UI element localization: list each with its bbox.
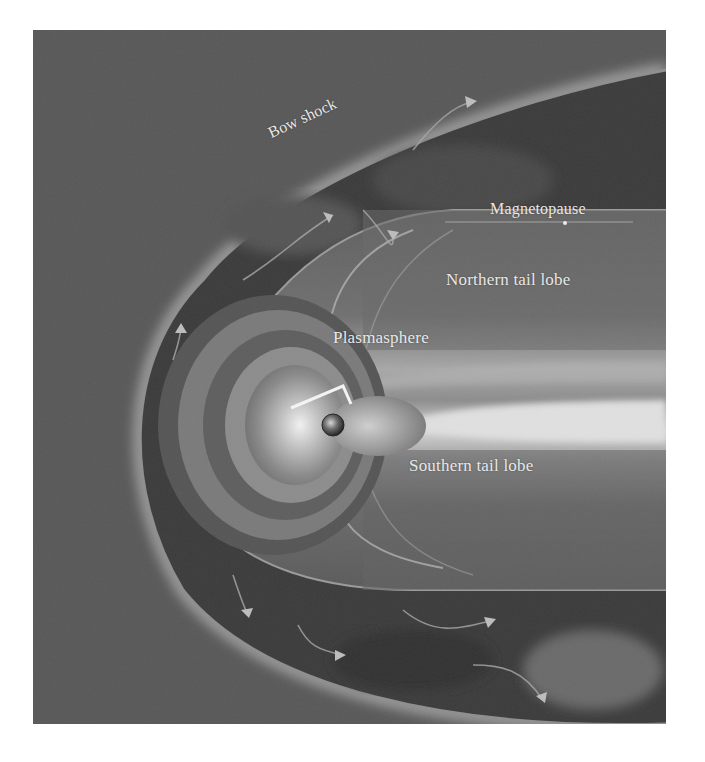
northern-tail-lobe-label: Northern tail lobe — [446, 270, 570, 290]
southern-tail-lobe-label: Southern tail lobe — [409, 456, 533, 476]
magnetosphere-diagram: Bow shock Magnetopause Northern tail lob… — [33, 30, 666, 724]
magnetosphere-illustration — [33, 30, 666, 724]
plasmasphere-label: Plasmasphere — [333, 328, 429, 348]
magnetopause-label: Magnetopause — [490, 200, 586, 218]
